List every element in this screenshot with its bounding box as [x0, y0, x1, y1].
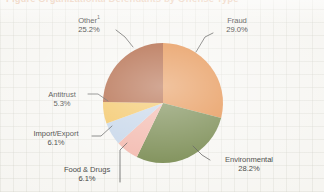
figure-container: Figure Organizational Defendants by Offe…	[0, 0, 324, 192]
pie-label-other: Other1 25.2%	[62, 17, 116, 35]
pie-label-fraud-text: Fraud	[227, 16, 247, 25]
pie-label-other-value: 25.2%	[62, 26, 116, 35]
pie-label-food-and-drugs: Food & Drugs 6.1%	[54, 166, 120, 184]
pie-label-food-and-drugs-text: Food & Drugs	[64, 165, 110, 174]
pie-label-fraud: Fraud 29.0%	[212, 17, 262, 35]
pie-label-antitrust-value: 5.3%	[36, 100, 88, 109]
leader-line-other	[116, 30, 133, 47]
pie-label-import-export-value: 6.1%	[20, 139, 92, 148]
pie-label-import-export-text: Import/Export	[34, 129, 79, 138]
pie-label-import-export: Import/Export 6.1%	[20, 130, 92, 148]
pie-chart: Other1 25.2% Fraud 29.0% Environmental 2…	[0, 0, 324, 192]
pie-label-environmental-value: 28.2%	[211, 165, 287, 174]
pie-label-antitrust: Antitrust 5.3%	[36, 91, 88, 109]
leader-line-fraud	[196, 33, 213, 52]
pie-label-environmental: Environmental 28.2%	[211, 156, 287, 174]
pie-label-food-and-drugs-value: 6.1%	[54, 175, 120, 184]
pie-label-antitrust-text: Antitrust	[48, 90, 75, 99]
pie-slice-other[interactable]	[103, 43, 163, 103]
pie-label-other-superscript: 1	[97, 14, 100, 20]
pie-label-fraud-value: 29.0%	[212, 26, 262, 35]
pie-label-environmental-text: Environmental	[225, 155, 273, 164]
pie-label-other-text: Other	[78, 16, 97, 25]
